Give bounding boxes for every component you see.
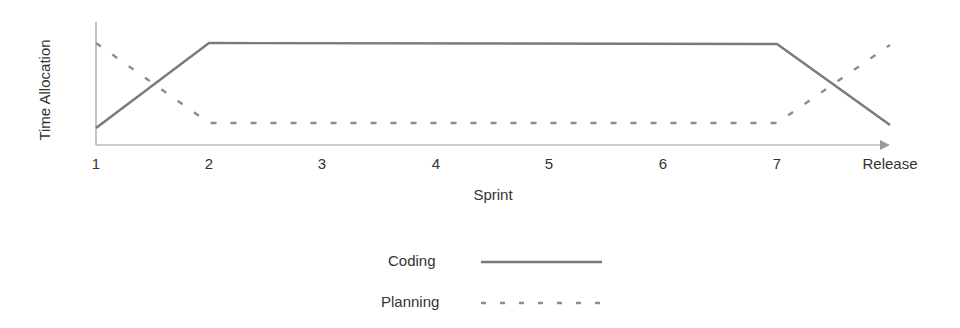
x-tick-label: 4	[432, 155, 440, 172]
x-tick-label: 7	[773, 155, 781, 172]
x-tick-label: 3	[318, 155, 326, 172]
coding-series-line	[96, 43, 890, 128]
y-axis-label: Time Allocation	[36, 39, 53, 140]
planning-series-line	[96, 43, 890, 123]
legend-coding-label: Coding	[388, 252, 436, 269]
x-axis-arrow-icon	[880, 140, 890, 150]
x-axis-label: Sprint	[473, 186, 512, 203]
x-tick-label: 6	[659, 155, 667, 172]
legend-planning-label: Planning	[381, 293, 439, 310]
chart-plot	[0, 0, 960, 328]
x-tick-label: Release	[862, 155, 917, 172]
x-tick-label: 2	[205, 155, 213, 172]
x-tick-label: 1	[92, 155, 100, 172]
x-tick-label: 5	[545, 155, 553, 172]
